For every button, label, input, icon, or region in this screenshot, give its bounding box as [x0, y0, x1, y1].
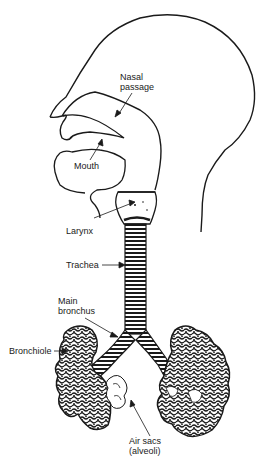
anatomy-illustration — [0, 0, 265, 462]
left-lung — [55, 326, 110, 429]
label-larynx: Larynx — [66, 226, 93, 236]
label-nasal-passage: Nasal passage — [120, 72, 154, 92]
right-lung — [157, 326, 229, 436]
label-air-sacs: Air sacs (alveoli) — [129, 436, 161, 456]
chin-outline — [54, 153, 85, 193]
larynx-shape — [116, 192, 157, 224]
nasal-cavity — [62, 92, 161, 190]
label-mouth: Mouth — [74, 161, 99, 171]
respiratory-system-diagram: Nasal passage Mouth Larynx Trachea Main … — [0, 0, 265, 462]
label-main-bronchus: Main bronchus — [58, 296, 95, 316]
label-trachea: Trachea — [66, 260, 99, 270]
trachea-shape — [125, 224, 146, 334]
palate — [63, 115, 124, 138]
nose-outline — [50, 115, 72, 140]
mouth-outline — [60, 149, 125, 218]
label-bronchiole: Bronchiole — [9, 346, 52, 356]
